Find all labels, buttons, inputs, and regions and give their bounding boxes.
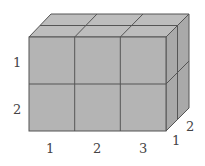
cube-diagram: 1 2 1 2 3 1 2 — [0, 0, 205, 166]
height-label-1: 1 — [13, 55, 21, 70]
width-label-3: 3 — [139, 141, 147, 156]
height-label-2: 2 — [13, 102, 21, 117]
depth-label-2: 2 — [186, 119, 194, 134]
width-label-1: 1 — [46, 141, 54, 156]
depth-label-1: 1 — [172, 133, 180, 148]
width-label-2: 2 — [93, 141, 101, 156]
